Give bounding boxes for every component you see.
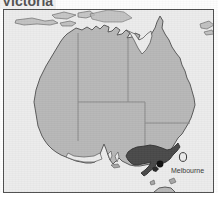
melbourne-label: Melbourne (171, 167, 204, 175)
map-title-block: Victoria (0, 0, 56, 9)
australia-map-svg (4, 10, 214, 193)
bottom-margin (0, 193, 218, 204)
map-page: Victoria Melbourne (0, 0, 218, 204)
melbourne-city-dot[interactable] (157, 161, 164, 168)
map-frame (3, 9, 214, 193)
page-title: Victoria (2, 0, 53, 8)
